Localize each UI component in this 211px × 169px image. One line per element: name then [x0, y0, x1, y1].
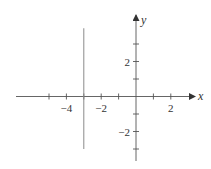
x-tick-label: 2: [168, 102, 174, 114]
coordinate-plane: −4−222−2 x y: [0, 0, 211, 169]
y-tick-label: 2: [125, 56, 131, 68]
x-tick-label: −4: [61, 102, 73, 114]
y-tick-label: −2: [118, 126, 130, 138]
axes: −4−222−2: [16, 15, 195, 161]
y-axis-label: y: [140, 13, 147, 27]
x-axis-label: x: [197, 89, 204, 103]
x-tick-label: −2: [95, 102, 107, 114]
